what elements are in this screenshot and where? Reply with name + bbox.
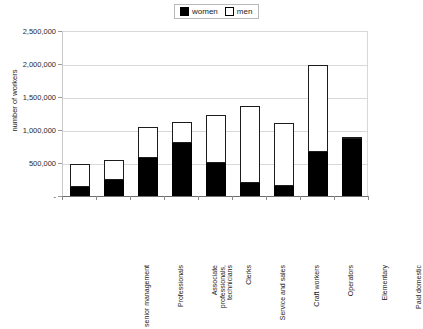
- y-tick-label: 1,000,000: [4, 126, 56, 135]
- chart-legend: women men: [174, 4, 259, 19]
- y-tick-label: 500,000: [4, 159, 56, 168]
- x-tick-mark: [96, 196, 97, 200]
- y-tick-mark: [58, 31, 62, 32]
- x-category-label: Associate professionals, technicians: [211, 265, 234, 329]
- bar-segment-men: [70, 164, 90, 187]
- bar-segment-men: [104, 160, 124, 179]
- x-category-label: Operators: [347, 265, 355, 329]
- y-tick-mark: [58, 64, 62, 65]
- bar-segment-women: [104, 180, 124, 197]
- x-category-label: Paid domestic: [415, 265, 423, 329]
- y-tick-label: 2,000,000: [4, 60, 56, 69]
- bar-segment-women: [342, 139, 362, 196]
- bar-segment-men: [240, 106, 260, 183]
- x-category-label: Service and sales: [279, 265, 287, 329]
- x-category-label: senior management: [143, 265, 151, 329]
- bar-segment-men: [206, 115, 226, 163]
- legend-swatch-women-icon: [180, 7, 189, 16]
- x-category-label: Clerks: [245, 265, 253, 329]
- x-tick-mark: [266, 196, 267, 200]
- x-tick-mark: [334, 196, 335, 200]
- bar-3: [138, 127, 158, 196]
- bar-7: [274, 123, 294, 196]
- x-category-label: Craft workers: [313, 265, 321, 329]
- bar-segment-men: [172, 122, 192, 143]
- bar-segment-men: [308, 65, 328, 152]
- bar-segment-women: [274, 186, 294, 196]
- bar-1: [70, 164, 90, 196]
- bar-segment-women: [240, 183, 260, 196]
- bar-5: [206, 115, 226, 196]
- bar-segment-men: [138, 127, 158, 158]
- x-category-label: Elementary: [381, 265, 389, 329]
- bar-9: [342, 137, 362, 196]
- legend-label-men: men: [237, 8, 253, 16]
- bar-segment-women: [172, 143, 192, 196]
- y-tick-label: 1,500,000: [4, 93, 56, 102]
- y-tick-mark: [58, 130, 62, 131]
- x-axis-line: [62, 196, 368, 197]
- y-tick-mark: [58, 163, 62, 164]
- plot-area: [62, 31, 368, 196]
- legend-swatch-men-icon: [225, 7, 234, 16]
- x-tick-mark: [232, 196, 233, 200]
- bar-segment-women: [138, 158, 158, 196]
- x-category-label: Professionals: [177, 265, 185, 329]
- legend-entry-women: women: [180, 7, 218, 16]
- bar-segment-women: [70, 187, 90, 196]
- bar-2: [104, 160, 124, 196]
- x-tick-mark: [130, 196, 131, 200]
- bar-segment-men: [274, 123, 294, 186]
- y-tick-label: 2,500,000: [4, 27, 56, 36]
- x-tick-mark: [368, 196, 369, 200]
- legend-entry-men: men: [225, 7, 253, 16]
- legend-label-women: women: [192, 8, 218, 16]
- y-axis-ticks: 2,500,0002,000,0001,500,0001,000,000500,…: [0, 0, 56, 266]
- bar-segment-women: [308, 152, 328, 196]
- bar-6: [240, 106, 260, 196]
- x-tick-mark: [300, 196, 301, 200]
- bar-segment-women: [206, 163, 226, 196]
- bar-8: [308, 65, 328, 196]
- y-tick-mark: [58, 97, 62, 98]
- x-tick-mark: [198, 196, 199, 200]
- bar-4: [172, 122, 192, 196]
- x-tick-mark: [164, 196, 165, 200]
- y-tick-label: -: [4, 192, 56, 201]
- x-tick-mark: [62, 196, 63, 200]
